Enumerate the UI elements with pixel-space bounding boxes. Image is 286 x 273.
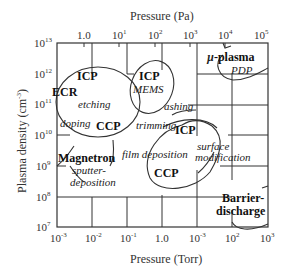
region-label-film-deposition: film deposition xyxy=(122,149,188,160)
bottom-tick-0: 10-3 xyxy=(50,233,67,244)
region-label-modification: modification xyxy=(195,152,251,163)
region-label-doping: doping xyxy=(60,118,91,129)
region-label-icp-etching: ICP xyxy=(77,70,98,82)
region-label-mems: MEMS xyxy=(133,84,164,95)
bottom-tick-2: 10-1 xyxy=(120,233,137,244)
mu-symbol: µ xyxy=(207,50,214,64)
region-label-sputter-deposition: deposition xyxy=(70,177,116,188)
region-label-etching: etching xyxy=(78,99,110,110)
bottom-tick-3: 1.0 xyxy=(155,233,169,244)
region-label-ashing: ashing xyxy=(164,101,193,112)
bottom-tick-6: 103 xyxy=(260,233,275,244)
left-tick-12: 1012 xyxy=(34,69,52,80)
region-label-icp-trimming: ICP xyxy=(175,124,196,136)
left-axis-title-close: ) xyxy=(15,89,29,93)
left-axis-title-text: Plasma density (cm xyxy=(15,99,29,193)
bottom-tick-5: 102 xyxy=(225,233,240,244)
top-tick-5: 105 xyxy=(254,30,269,41)
top-axis-title: Pressure (Pa) xyxy=(130,10,194,22)
region-label-trimming: trimming xyxy=(136,120,176,131)
left-tick-11: 1011 xyxy=(34,99,52,110)
region-label-mu-plasma: µ-plasma xyxy=(207,51,255,63)
bottom-tick-4: 10-3 xyxy=(189,233,206,244)
region-label-barrier: Barrier- xyxy=(222,192,264,204)
bottom-tick-1: 10-2 xyxy=(85,233,102,244)
top-tick-0: 1.0 xyxy=(77,30,91,41)
top-tick-4: 104 xyxy=(218,30,233,41)
left-axis-title-exponent: -3 xyxy=(15,93,23,99)
region-label-discharge: discharge xyxy=(216,205,265,217)
top-tick-2: 102 xyxy=(148,30,163,41)
region-label-ecr: ECR xyxy=(52,86,77,98)
region-label-ccp-doping: CCP xyxy=(96,120,121,132)
bottom-axis-title: Pressure (Torr) xyxy=(130,253,202,265)
region-label-pdp: PDP xyxy=(231,65,252,76)
left-tick-9: 109 xyxy=(36,161,51,172)
left-tick-10: 1010 xyxy=(34,130,52,141)
left-axis-title: Plasma density (cm-3) xyxy=(16,81,28,201)
region-label-icp-mems: ICP xyxy=(139,70,160,82)
top-tick-3: 103 xyxy=(183,30,198,41)
left-tick-7: 107 xyxy=(36,222,51,233)
region-label-ccp-film: CCP xyxy=(154,167,179,179)
left-tick-13: 1013 xyxy=(34,38,52,49)
region-label-sputter: sputter- xyxy=(72,165,106,176)
top-tick-1: 101 xyxy=(112,30,127,41)
left-tick-8: 108 xyxy=(36,192,51,203)
region-label-magnetron: Magnetron xyxy=(58,152,115,164)
plasma-text: -plasma xyxy=(214,50,255,64)
